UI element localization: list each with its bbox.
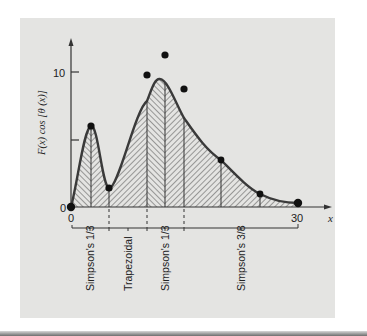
integration-figure: 10 0 0 30 x F(x) cos [θ (x)] Simpson's 1… [0, 0, 367, 336]
data-point [218, 157, 225, 164]
data-point [257, 191, 264, 198]
hatch-seg-4 [184, 60, 298, 207]
x-tick-label-30: 30 [291, 212, 303, 224]
x-tick-label-0: 0 [68, 212, 74, 224]
data-point [67, 203, 75, 211]
x-axis-label: x [327, 212, 333, 224]
y-axis-label: F(x) cos [θ (x)] [36, 90, 48, 156]
hatch-seg-2 [109, 60, 147, 207]
data-point [161, 51, 168, 58]
data-point [87, 122, 94, 129]
data-point [180, 85, 187, 92]
y-tick-label-0: 0 [60, 202, 66, 214]
segment-label-simpson38: Simpson's 3/8 [235, 225, 247, 291]
segment-label-trapezoidal: Trapezoidal [122, 237, 134, 291]
segment-label-simpson13-a: Simpson's 1/3 [84, 225, 96, 291]
page-bottom-rule [0, 331, 367, 336]
x-axis-arrow-icon [324, 205, 332, 210]
segment-label-simpson13-b: Simpson's 1/3 [159, 225, 171, 291]
segment-separators [109, 209, 184, 228]
data-point [143, 71, 150, 78]
y-tick-label-10: 10 [53, 67, 65, 79]
data-point [105, 184, 112, 191]
segment-bracket [72, 224, 298, 231]
hatch-seg-3b [165, 60, 184, 207]
y-axis-arrow-icon [69, 38, 74, 46]
data-point [294, 199, 302, 207]
